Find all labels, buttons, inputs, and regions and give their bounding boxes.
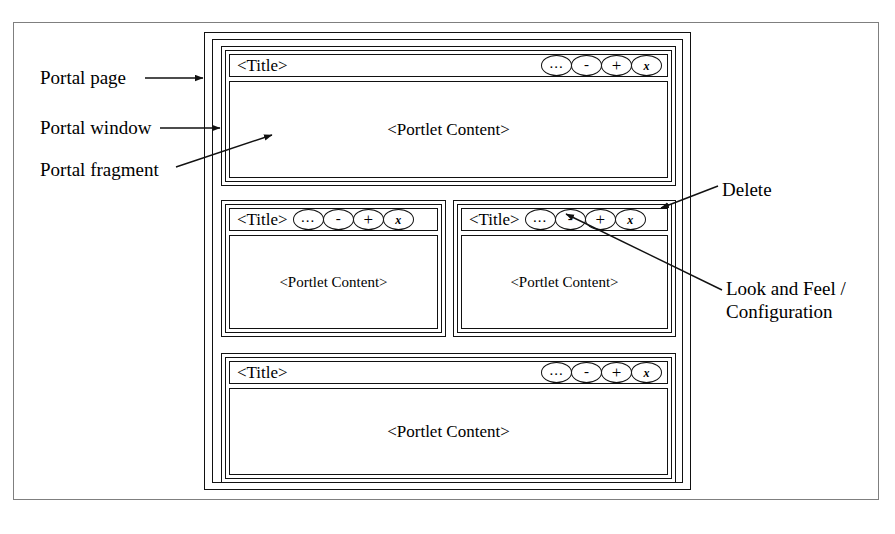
portlet-content-area: <Portlet Content>: [229, 81, 668, 178]
portlet-content-area: <Portlet Content>: [229, 235, 438, 329]
options-button[interactable]: ...: [525, 209, 556, 230]
portlet-button-group: ... - + x: [542, 362, 667, 383]
portlet-title-bar: <Title> ... - + x: [461, 208, 668, 231]
portlet-content-label: <Portlet Content>: [279, 274, 387, 291]
portlet-title-bar: <Title> ... - + x: [229, 208, 438, 231]
minimize-button[interactable]: -: [555, 209, 586, 230]
portal-window-border: <Title> ... - + x <Portlet Content>: [225, 204, 442, 333]
options-button[interactable]: ...: [541, 362, 572, 383]
portal-window-border: <Title> ... - + x <Portlet Content>: [457, 204, 672, 333]
portlet-content-label: <Portlet Content>: [510, 274, 618, 291]
annotation-look-and-feel: Look and Feel /Configuration: [726, 277, 846, 323]
maximize-button[interactable]: +: [353, 209, 384, 230]
portlet-button-group: ... - + x: [520, 209, 646, 230]
close-button[interactable]: x: [615, 209, 646, 230]
portlet-title-bar: <Title> ... - + x: [229, 54, 668, 77]
portlet-title: <Title>: [462, 211, 520, 228]
annotation-look-and-feel-line2: Configuration: [726, 300, 846, 323]
annotation-delete: Delete: [722, 178, 772, 201]
portlet-content-area: <Portlet Content>: [461, 235, 668, 329]
portlet-button-group: ... - + x: [542, 55, 667, 76]
close-button[interactable]: x: [631, 55, 662, 76]
maximize-button[interactable]: +: [585, 209, 616, 230]
minimize-button[interactable]: -: [571, 55, 602, 76]
minimize-button[interactable]: -: [571, 362, 602, 383]
annotation-portal-fragment: Portal fragment: [40, 158, 159, 181]
maximize-button[interactable]: +: [601, 362, 632, 383]
portlet-title-bar: <Title> ... - + x: [229, 361, 668, 384]
close-button[interactable]: x: [631, 362, 662, 383]
portlet-button-group: ... - + x: [288, 209, 414, 230]
portal-window-top: <Title> ... - + x <Portlet Content>: [221, 46, 676, 186]
portlet-title: <Title>: [230, 211, 288, 228]
portlet-content-label: <Portlet Content>: [387, 422, 510, 442]
portal-window-border: <Title> ... - + x <Portlet Content>: [225, 357, 672, 479]
portlet-title: <Title>: [230, 364, 288, 381]
portlet-content-label: <Portlet Content>: [387, 120, 510, 140]
portal-window-mid-left: <Title> ... - + x <Portlet Content>: [221, 200, 446, 337]
annotation-look-and-feel-line1: Look and Feel /: [726, 278, 846, 299]
options-button[interactable]: ...: [293, 209, 324, 230]
close-button[interactable]: x: [383, 209, 414, 230]
portlet-content-area: <Portlet Content>: [229, 388, 668, 475]
portal-window-border: <Title> ... - + x <Portlet Content>: [225, 50, 672, 182]
annotation-portal-window: Portal window: [40, 116, 151, 139]
maximize-button[interactable]: +: [601, 55, 632, 76]
diagram-canvas: <Title> ... - + x <Portlet Content> <Tit…: [0, 0, 895, 534]
portal-window-mid-right: <Title> ... - + x <Portlet Content>: [453, 200, 676, 337]
minimize-button[interactable]: -: [323, 209, 354, 230]
portal-window-bottom: <Title> ... - + x <Portlet Content>: [221, 353, 676, 483]
annotation-portal-page: Portal page: [40, 66, 126, 89]
portlet-title: <Title>: [230, 57, 288, 74]
options-button[interactable]: ...: [541, 55, 572, 76]
